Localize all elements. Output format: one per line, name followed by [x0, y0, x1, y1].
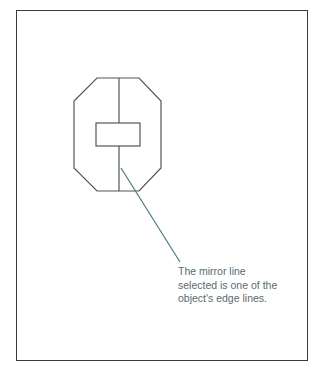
inner-rectangle [96, 123, 140, 146]
callout-text: The mirror line selected is one of the o… [178, 265, 298, 306]
callout-line-2: selected is one of the [178, 279, 298, 293]
callout-line-1: The mirror line [178, 265, 298, 279]
callout-leader-line [121, 168, 180, 262]
callout-line-3: object's edge lines. [178, 292, 298, 306]
diagram-canvas [0, 0, 320, 366]
